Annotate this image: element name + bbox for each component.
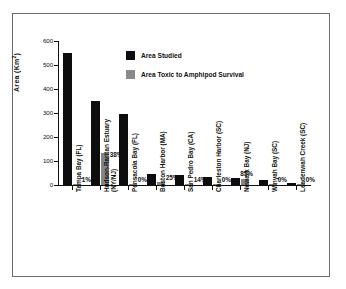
x-axis-category-label: Hudson-Raritan Estuary(NY/NJ): [103, 119, 118, 192]
bar-area-studied: [203, 177, 213, 185]
figure-frame: Area (Km2) 0100200300400500600 1%38%0%25…: [12, 13, 330, 277]
y-tick-label-wrap: 100: [23, 158, 53, 166]
y-tick-label-wrap: 0: [23, 182, 53, 190]
x-tick-mark: [240, 186, 241, 190]
x-tick-mark: [128, 186, 129, 190]
x-tick-mark: [72, 186, 73, 190]
bar-area-studied: [259, 180, 269, 185]
x-tick-mark: [296, 186, 297, 190]
y-axis-title-exponent: 2: [11, 55, 17, 58]
legend-item-area-studied: Area Studied: [126, 51, 286, 60]
y-axis-title-base: Area (Km: [13, 58, 20, 92]
bar-area-studied: [119, 114, 129, 185]
y-tick-label-wrap: 300: [23, 110, 53, 118]
category-label-line1: Tampa Bay (FL): [75, 145, 82, 192]
x-tick-mark: [212, 186, 213, 190]
x-axis-category-label: Pensacola Bay (FL): [131, 133, 138, 192]
x-axis-category-label: Newark Bay (NJ): [243, 142, 250, 192]
y-tick-label: 0: [29, 182, 53, 188]
y-tick-mark: [54, 185, 58, 186]
x-tick-mark: [184, 186, 185, 190]
x-tick-mark: [268, 186, 269, 190]
bar-area-studied: [147, 174, 157, 185]
bar-percent-label: 0%: [138, 177, 147, 183]
y-tick-label: 500: [29, 62, 53, 68]
y-tick-label-wrap: 200: [23, 134, 53, 142]
y-tick-label: 400: [29, 86, 53, 92]
y-tick-label: 600: [29, 38, 53, 44]
chart-legend: Area Studied Area Toxic to Amphipod Surv…: [126, 51, 286, 89]
legend-label-area-toxic: Area Toxic to Amphipod Survival: [141, 71, 244, 78]
x-tick-mark: [156, 186, 157, 190]
y-tick-label-wrap: 500: [23, 62, 53, 70]
x-axis-category-label: Leadenwah Creek (SC): [299, 123, 306, 192]
category-label-line1: San Pedro Bay (CA): [187, 132, 194, 192]
category-label-line1: Charleston Harbor (SC): [215, 121, 222, 192]
category-label-line1: Boston Harbor (MA): [159, 131, 166, 192]
y-tick-label-wrap: 400: [23, 86, 53, 94]
category-label-line2: (NY/NJ): [110, 119, 117, 192]
x-axis-category-label: Charleston Harbor (SC): [215, 121, 222, 192]
bar-area-studied: [231, 178, 241, 185]
x-tick-mark: [100, 186, 101, 190]
category-label-line1: Newark Bay (NJ): [243, 142, 250, 192]
bar-area-studied: [175, 175, 185, 185]
legend-swatch-gray-icon: [126, 70, 135, 79]
bar-area-studied: [91, 101, 101, 185]
category-label-line1: Winyah Bay (SC): [271, 141, 278, 192]
bar-percent-label: 0%: [306, 177, 315, 183]
y-axis-title-close: ): [13, 53, 20, 56]
bar-percent-label: 1%: [82, 177, 91, 183]
bar-area-studied: [287, 183, 297, 185]
legend-label-area-studied: Area Studied: [141, 52, 182, 59]
x-axis-category-label: Tampa Bay (FL): [75, 145, 82, 192]
x-axis-category-label: Winyah Bay (SC): [271, 141, 278, 192]
y-tick-label: 300: [29, 110, 53, 116]
category-label-line1: Hudson-Raritan Estuary: [103, 119, 110, 192]
bar-percent-label: 0%: [222, 177, 231, 183]
category-label-line1: Leadenwah Creek (SC): [299, 123, 306, 192]
legend-swatch-black-icon: [126, 51, 135, 60]
category-label-line1: Pensacola Bay (FL): [131, 133, 138, 192]
legend-item-area-toxic: Area Toxic to Amphipod Survival: [126, 70, 286, 79]
x-axis-category-label: San Pedro Bay (CA): [187, 132, 194, 192]
bar-percent-label: 0%: [278, 177, 287, 183]
x-axis-category-label: Boston Harbor (MA): [159, 131, 166, 192]
y-tick-label-wrap: 600: [23, 38, 53, 46]
y-tick-label: 100: [29, 158, 53, 164]
bar-area-studied: [63, 53, 73, 185]
y-tick-label: 200: [29, 134, 53, 140]
y-axis-title: Area (Km2): [11, 53, 20, 92]
